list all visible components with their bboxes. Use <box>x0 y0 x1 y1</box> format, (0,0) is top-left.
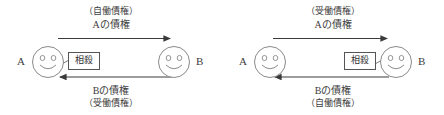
bottom-arrow-label-line2: （自働債権） <box>263 97 403 110</box>
offset-box: 相殺 <box>68 52 100 70</box>
top-arrow-label-line1: （受働債権） <box>263 5 403 18</box>
person-a-label: A <box>239 55 247 67</box>
person-b-face <box>157 45 191 79</box>
person-b-label: B <box>418 55 425 67</box>
diagram-canvas: （自働債権） Aの債権 <box>0 0 444 115</box>
top-arrow-label-line2: Aの債権 <box>263 18 403 31</box>
person-b-label: B <box>196 55 203 67</box>
person-a-face <box>31 45 65 79</box>
top-arrow-label-right: （受働債権） Aの債権 <box>263 5 403 31</box>
person-b-face <box>379 45 413 79</box>
bottom-arrow-label-right: Bの債権 （自働債権） <box>263 84 403 110</box>
person-a-face <box>253 45 287 79</box>
offset-diagram-left: （自働債権） Aの債権 <box>0 0 222 115</box>
bottom-arrow-label-line1: Bの債権 <box>263 84 403 97</box>
person-a-label: A <box>17 55 25 67</box>
bottom-arrow-label-line1: Bの債権 <box>41 84 181 97</box>
top-arrow-label-line1: （自働債権） <box>41 5 181 18</box>
top-arrow-label-left: （自働債権） Aの債権 <box>41 5 181 31</box>
offset-diagram-right: （受働債権） Aの債権 <box>222 0 444 115</box>
top-arrow-label-line2: Aの債権 <box>41 18 181 31</box>
offset-box: 相殺 <box>344 52 376 70</box>
bottom-arrow-label-line2: （受働債権） <box>41 97 181 110</box>
bottom-arrow-label-left: Bの債権 （受働債権） <box>41 84 181 110</box>
